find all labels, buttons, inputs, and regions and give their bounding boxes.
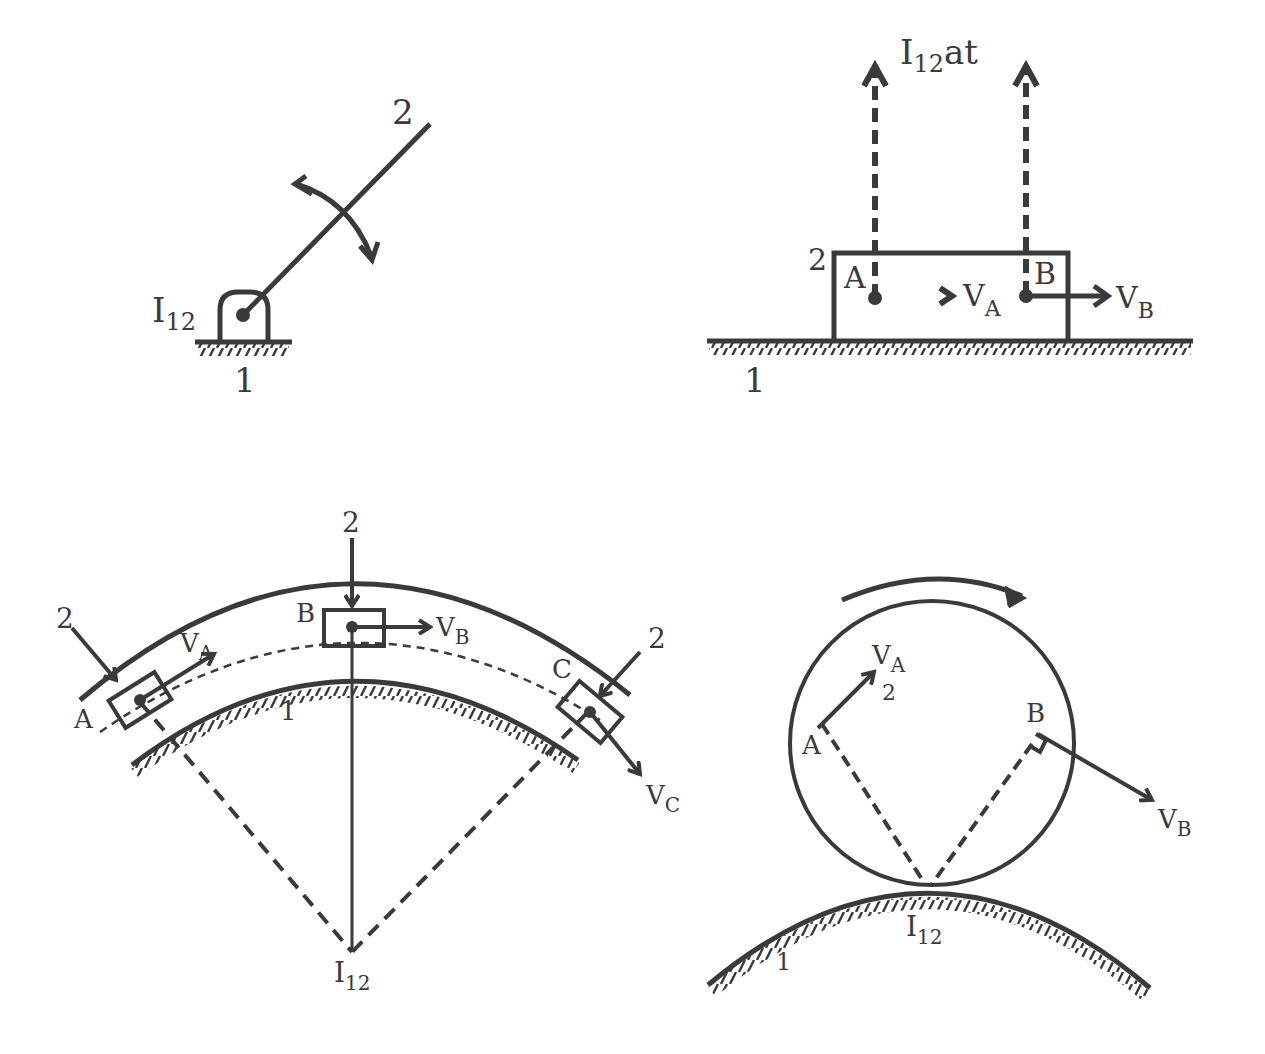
label-link-right: 2 xyxy=(648,622,666,655)
vel-b-arrow xyxy=(1038,734,1152,800)
label-vel-b: VB xyxy=(435,612,469,649)
label-vel-a: VA xyxy=(962,278,1002,321)
vel-a-arrowhead xyxy=(940,288,952,304)
pivot-pin xyxy=(236,308,250,322)
pointer-left xyxy=(72,628,116,680)
label-link-top: 2 xyxy=(342,506,360,539)
label-point-a: A xyxy=(73,704,94,734)
label-center: I12at xyxy=(900,32,978,78)
ground-hatch xyxy=(709,343,1191,355)
panel-revolute xyxy=(195,124,430,356)
label-center: I12 xyxy=(906,910,943,949)
label-center: I12 xyxy=(334,956,371,995)
label-vel-a: VA xyxy=(179,628,214,665)
radius-c-dashed xyxy=(352,712,588,952)
label-vel-a: VA xyxy=(871,640,906,677)
right-angle-a xyxy=(818,724,822,728)
label-point-c: C xyxy=(552,654,572,684)
label-vel-c: VC xyxy=(645,780,680,817)
link-2-bar xyxy=(243,124,430,315)
diagram-canvas: 2 1 I12 I12at 2 1 A B VA VB xyxy=(0,0,1265,1054)
label-point-a: A xyxy=(843,260,866,295)
label-point-b: B xyxy=(1026,698,1045,728)
rotation-arrow-icon xyxy=(842,579,1022,600)
radius-b-dashed xyxy=(932,744,1032,884)
rotation-arrowhead xyxy=(1004,588,1022,606)
label-ground: 1 xyxy=(776,948,791,976)
label-ground: 1 xyxy=(280,696,297,726)
label-ground: 1 xyxy=(744,360,766,400)
label-link-left: 2 xyxy=(56,602,74,635)
label-link: 2 xyxy=(882,680,896,705)
ground-hatch xyxy=(197,344,289,356)
label-point-b: B xyxy=(1034,256,1056,291)
panel-prismatic-curved xyxy=(72,538,640,952)
ground-arc-hatch xyxy=(134,692,576,772)
label-ground: 1 xyxy=(234,360,256,400)
label-link: 2 xyxy=(808,242,827,277)
radius-a-dashed xyxy=(140,702,352,952)
label-vel-b: VB xyxy=(1115,280,1154,323)
radius-a-dashed xyxy=(822,724,925,884)
label-center: I12 xyxy=(152,290,196,336)
label-vel-b: VB xyxy=(1157,804,1191,841)
vel-a-arrow xyxy=(822,672,874,724)
label-point-a: A xyxy=(801,730,822,760)
point-a-dot xyxy=(868,291,882,305)
label-link: 2 xyxy=(392,92,414,132)
label-point-b: B xyxy=(296,598,315,628)
